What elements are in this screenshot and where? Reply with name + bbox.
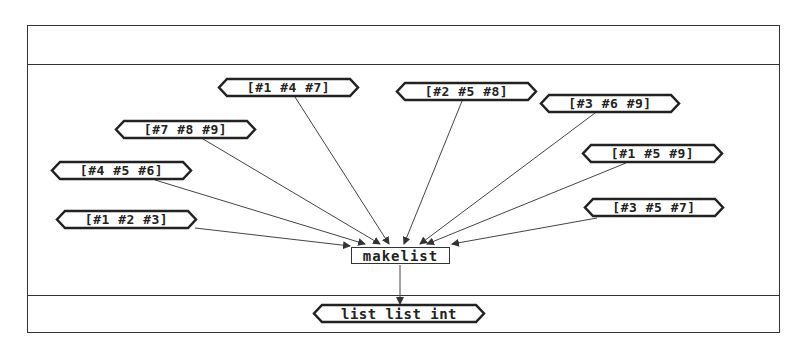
edge-789 [203, 139, 380, 244]
node-label: [#3 #5 #7] [612, 200, 695, 215]
node-label: [#1 #4 #7] [247, 80, 330, 95]
input-node-159[interactable]: [#1 #5 #9] [583, 145, 722, 162]
input-node-357[interactable]: [#3 #5 #7] [585, 199, 723, 216]
edge-258 [404, 101, 462, 244]
node-label: [#7 #8 #9] [144, 122, 227, 137]
edge-369 [420, 113, 595, 244]
input-node-123[interactable]: [#1 #2 #3] [57, 211, 196, 228]
output-node[interactable]: list list int [314, 305, 484, 322]
input-node-789[interactable]: [#7 #8 #9] [116, 121, 255, 138]
input-node-456[interactable]: [#4 #5 #6] [52, 162, 191, 179]
input-node-258[interactable]: [#2 #5 #8] [397, 83, 536, 100]
input-node-369[interactable]: [#3 #6 #9] [541, 95, 679, 112]
function-label: makelist [363, 248, 438, 264]
function-node-makelist[interactable]: makelist [351, 247, 450, 264]
edge-357 [452, 218, 597, 244]
edge-123 [195, 228, 350, 246]
node-label: [#2 #5 #8] [425, 84, 508, 99]
node-label: [#1 #5 #9] [611, 146, 694, 161]
input-node-147[interactable]: [#1 #4 #7] [219, 79, 358, 96]
node-label: [#1 #2 #3] [85, 212, 168, 227]
node-label: [#4 #5 #6] [80, 163, 163, 178]
node-label: [#3 #6 #9] [568, 96, 651, 111]
output-label: list list int [341, 306, 457, 322]
